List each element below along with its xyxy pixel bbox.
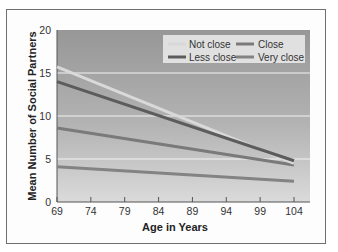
y-tick-label: 5 (45, 153, 51, 165)
x-tick-label: 99 (254, 205, 266, 217)
x-tick-label: 69 (51, 205, 63, 217)
x-tick-label: 104 (285, 205, 303, 217)
legend-label-less-close: Less close (189, 52, 237, 63)
legend-label-not-close: Not close (189, 39, 231, 50)
legend-label-very-close: Very close (258, 52, 305, 63)
y-axis-ticks: 05101520 (39, 24, 51, 208)
y-axis-title: Mean Number of Social Partners (26, 31, 38, 200)
y-tick-label: 0 (45, 196, 51, 208)
legend: Not close Close Less close Very close (163, 35, 305, 63)
x-tick-label: 84 (153, 205, 165, 217)
legend-label-close: Close (258, 39, 284, 50)
x-tick-label: 94 (220, 205, 232, 217)
y-tick-label: 20 (39, 24, 51, 36)
x-tick-label: 89 (187, 205, 199, 217)
line-chart: 69747984899499104 05101520 Not close Clo… (0, 0, 338, 252)
y-tick-label: 10 (39, 110, 51, 122)
x-axis-title: Age in Years (142, 221, 208, 233)
y-tick-label: 15 (39, 67, 51, 79)
x-tick-label: 74 (85, 205, 97, 217)
x-tick-label: 79 (119, 205, 131, 217)
